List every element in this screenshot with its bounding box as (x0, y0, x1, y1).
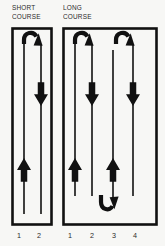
short-course-lane-number-1: 1 (15, 231, 24, 240)
short-course-lane-number-2: 2 (35, 231, 44, 240)
short-course-top-turn-icon (24, 33, 43, 46)
long-course-box (64, 29, 157, 225)
long-course-bottom-turn-icon (101, 195, 119, 209)
long-course-lane-4-down-arrow (126, 82, 140, 106)
long-course-lane-number-1: 1 (66, 231, 75, 240)
course-drawing (0, 0, 165, 246)
short-course-box (13, 29, 52, 225)
long-course-lane-number-3: 3 (110, 231, 119, 240)
short-course-lane-2-down-arrow (34, 82, 48, 106)
long-course-lane-number-2: 2 (88, 231, 97, 240)
long-course-top-turn-1-icon (75, 33, 94, 46)
long-course-lane-2-down-arrow (85, 82, 99, 106)
long-course-lane-1-up-arrow (68, 158, 82, 182)
long-course-lane-number-4: 4 (131, 231, 140, 240)
short-course-lane-1-up-arrow (17, 158, 31, 182)
long-course-lane-3-up-arrow (106, 158, 120, 182)
course-diagram: SHORTCOURSE LONGCOURSE (0, 0, 165, 246)
long-course-top-turn-2-icon (116, 33, 135, 46)
